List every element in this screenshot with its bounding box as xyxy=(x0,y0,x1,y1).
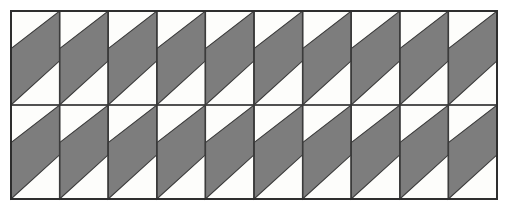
tessellation-figure: Diagonal band tessellation pattern Recta… xyxy=(0,0,510,213)
tessellation-svg: Diagonal band tessellation pattern Recta… xyxy=(0,0,510,213)
